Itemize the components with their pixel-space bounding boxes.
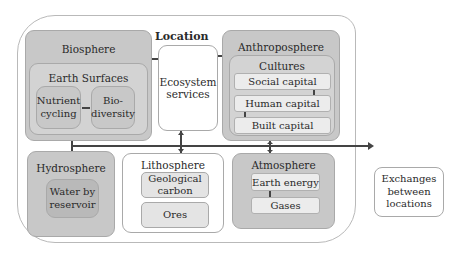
lithosphere-label: Lithosphere	[123, 159, 223, 171]
social-capital-bar: Social capital	[234, 73, 331, 90]
connector-nutrient-biodiversity	[82, 107, 90, 109]
ecosystem-services-box: Ecosystem services	[158, 45, 218, 131]
earth-energy-bar: Earth energy	[251, 173, 320, 191]
hydrosphere-label: Hydrosphere	[28, 162, 114, 174]
arrow-up-icon	[178, 131, 184, 135]
earth-surfaces-box: Earth Surfaces Nutrient cycling Bio-dive…	[29, 63, 148, 135]
connector-hydrosphere	[71, 141, 73, 151]
geological-carbon-box: Geological carbon	[141, 172, 209, 198]
ores-box: Ores	[141, 202, 209, 228]
hydrosphere-box: Hydrosphere Water by reservoir	[27, 151, 115, 237]
cultures-label: Cultures	[230, 60, 334, 72]
exchanges-box: Exchanges between locations	[374, 167, 444, 217]
lithosphere-box: Lithosphere Geological carbon Ores	[122, 153, 224, 233]
gases-bar: Gases	[251, 197, 320, 214]
biosphere-label: Biosphere	[26, 43, 151, 55]
arrow-up-icon	[267, 141, 273, 144]
anthroposphere-label: Anthroposphere	[223, 41, 339, 53]
anthroposphere-box: Anthroposphere Cultures Social capital H…	[222, 30, 340, 141]
atmosphere-label: Atmosphere	[233, 159, 334, 171]
location-label: Location	[155, 30, 207, 43]
atmosphere-box: Atmosphere Earth energy Gases	[232, 153, 335, 229]
built-capital-bar: Built capital	[234, 117, 331, 134]
earth-surfaces-label: Earth Surfaces	[30, 72, 147, 84]
arrow-right-icon	[368, 142, 374, 150]
water-by-reservoir-box: Water by reservoir	[46, 179, 99, 218]
cultures-box: Cultures Social capital Human capital Bu…	[229, 55, 335, 136]
biodiversity-box: Bio-diversity	[91, 86, 135, 129]
human-capital-bar: Human capital	[234, 95, 331, 112]
main-connector-line	[72, 145, 370, 147]
nutrient-cycling-box: Nutrient cycling	[36, 86, 81, 129]
biosphere-box: Biosphere Earth Surfaces Nutrient cyclin…	[25, 30, 152, 141]
